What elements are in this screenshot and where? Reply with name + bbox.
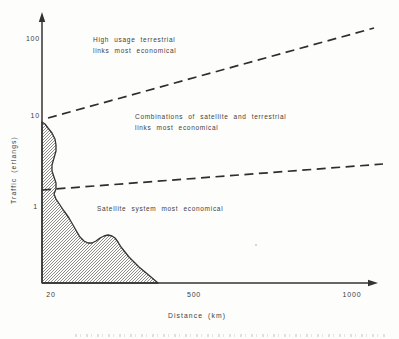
region-label-high-usage-line1: High usage terrestrial: [93, 34, 176, 45]
region-label-combinations: Combinations of satellite and terrestria…: [135, 111, 286, 133]
lower-boundary-dashed-line: [42, 164, 383, 190]
x-axis-title: Distance (km): [147, 312, 247, 319]
x-axis-arrowhead: [368, 280, 378, 286]
y-tick-10: 10: [10, 112, 40, 119]
region-label-high-usage: High usage terrestrial links most econom…: [93, 34, 176, 56]
y-axis-title-text: Traffic (erlangs): [10, 136, 17, 204]
y-axis-arrowhead: [39, 12, 45, 22]
x-tick-1000: 1000: [332, 291, 372, 298]
y-tick-100: 100: [10, 35, 40, 42]
figure-canvas: 100 10 1 20 500 1000 Traffic (erlangs) D…: [0, 0, 399, 339]
cropped-caption-remnant: [75, 334, 385, 337]
y-tick-1: 1: [8, 203, 38, 210]
x-tick-500: 500: [174, 291, 214, 298]
region-label-combinations-line2: links most economical: [135, 122, 286, 133]
print-speck: [255, 244, 257, 246]
plot-svg: [0, 0, 399, 339]
region-label-combinations-line1: Combinations of satellite and terrestria…: [135, 111, 286, 122]
region-label-satellite: Satellite system most economical: [97, 203, 223, 214]
x-tick-20: 20: [31, 291, 71, 298]
region-label-high-usage-line2: links most economical: [93, 45, 176, 56]
